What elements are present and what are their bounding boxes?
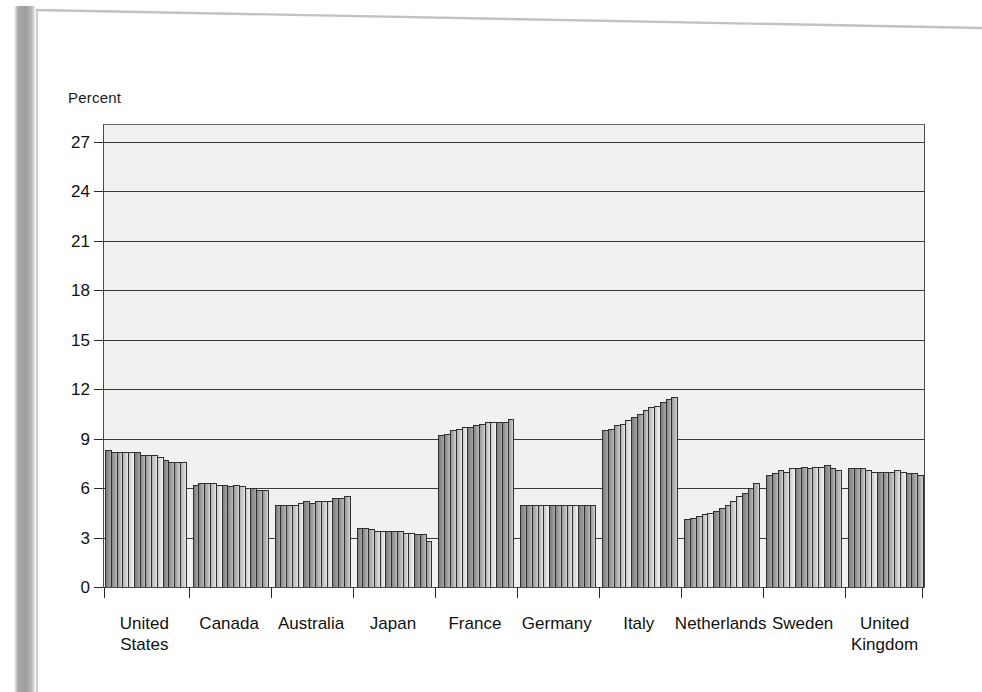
bar-group (275, 125, 350, 587)
y-tick-label: 6 (81, 480, 90, 497)
y-tick-label: 9 (81, 430, 90, 447)
bar-group (684, 125, 759, 587)
y-tick-label: 15 (71, 331, 90, 348)
y-axis-title: Percent (68, 89, 121, 106)
x-axis-label: Canada (199, 614, 259, 635)
y-tick-label: 0 (81, 579, 90, 596)
x-tick-mark (435, 587, 436, 598)
bar-group (357, 125, 432, 587)
bar (344, 496, 351, 587)
y-tick-mark (94, 587, 103, 588)
x-tick-mark (353, 587, 354, 598)
x-axis-label: Australia (278, 614, 344, 635)
x-tick-mark (271, 587, 272, 598)
bar (262, 490, 269, 587)
x-tick-mark (763, 587, 764, 598)
bar-group (520, 125, 595, 587)
y-tick-mark (94, 290, 103, 291)
bar (671, 397, 678, 587)
bar (917, 475, 924, 587)
y-tick-mark (94, 142, 103, 143)
x-tick-mark (104, 587, 105, 598)
x-axis-label: Italy (623, 614, 654, 635)
y-tick-mark (94, 191, 103, 192)
bar (590, 505, 597, 588)
y-tick-mark (94, 340, 103, 341)
x-tick-mark (845, 587, 846, 598)
bar (753, 483, 760, 587)
bar-group (105, 125, 186, 587)
y-tick-label: 18 (71, 282, 90, 299)
y-tick-label: 27 (71, 133, 90, 150)
bar-group (602, 125, 677, 587)
plot-area: 0369121518212427 (103, 124, 925, 588)
x-tick-mark (189, 587, 190, 598)
bar (180, 462, 187, 587)
y-tick-mark (94, 538, 103, 539)
bar-group (438, 125, 513, 587)
y-tick-mark (94, 439, 103, 440)
bar (508, 419, 515, 587)
y-tick-mark (94, 488, 103, 489)
x-axis-label: United States (120, 614, 169, 655)
x-tick-mark (922, 587, 923, 598)
bar-chart: Percent 0369121518212427 United StatesCa… (0, 0, 982, 692)
y-tick-label: 12 (71, 381, 90, 398)
x-axis-label: Germany (522, 614, 592, 635)
x-axis-labels: United StatesCanadaAustraliaJapanFranceG… (103, 600, 925, 686)
x-tick-mark (599, 587, 600, 598)
bar-group (848, 125, 923, 587)
x-tick-mark (517, 587, 518, 598)
x-axis-label: France (448, 614, 501, 635)
y-tick-mark (94, 241, 103, 242)
x-axis-label: Japan (370, 614, 416, 635)
y-tick-label: 24 (71, 183, 90, 200)
x-tick-mark (681, 587, 682, 598)
y-tick-label: 3 (81, 529, 90, 546)
x-axis-label: Netherlands (675, 614, 767, 635)
x-axis-label: Sweden (772, 614, 833, 635)
bar-group (766, 125, 841, 587)
y-tick-label: 21 (71, 232, 90, 249)
y-tick-mark (94, 389, 103, 390)
bar (426, 541, 433, 587)
bar-group (193, 125, 268, 587)
bar (835, 470, 842, 587)
x-axis-label: United Kingdom (851, 614, 918, 655)
